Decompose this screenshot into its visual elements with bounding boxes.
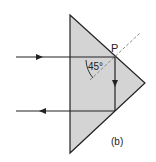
incident-arrow-icon bbox=[36, 54, 43, 60]
caption-label: (b) bbox=[111, 136, 123, 147]
point-label: P bbox=[111, 42, 118, 54]
prism-diagram: P 45° (b) bbox=[0, 0, 156, 162]
prism-triangle bbox=[70, 15, 145, 153]
angle-label: 45° bbox=[88, 61, 103, 72]
emergent-arrow-icon bbox=[39, 108, 46, 114]
